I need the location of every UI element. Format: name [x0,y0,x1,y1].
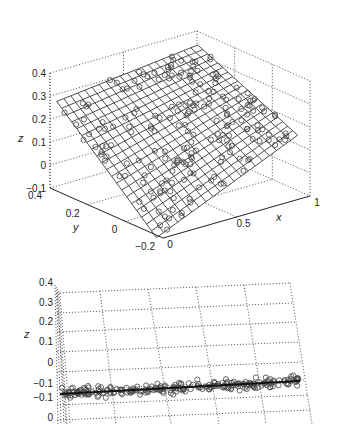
top-z-axis-label: z [17,132,24,144]
y-tick-label: −0.2 [135,241,155,252]
grid-line [196,287,219,424]
grid-line [290,283,312,424]
x-tick-label: 1 [314,197,320,208]
grid-line [57,283,290,293]
z-tick-label: −0.1 [33,392,53,403]
data-point [253,375,258,380]
z-tick-label: 0.4 [39,277,53,288]
z-tick-label: 0 [47,357,53,368]
bottom-z-axis-label: z [23,328,30,340]
top-3d-surface-plot: 0.40.30.20.10−0.10.40.20−0.200.51 z y x [17,31,320,252]
grid-line [57,362,302,372]
bottom-tick-labels: 0.40.30.20.10−0.1−0.10 [33,277,53,423]
z-tick-label: 0.3 [39,297,53,308]
bottom-3d-edge-view-plot: 0.40.30.20.10−0.1−0.10 z [23,277,312,424]
grid-line [57,342,299,352]
top-x-axis-label: x [275,211,282,223]
y-tick-label: 0.4 [28,190,42,201]
bottom-grid [55,283,312,424]
grid-line [57,293,66,424]
y-tick-label: 0.2 [66,208,80,219]
z-tick-label: 0 [47,412,53,423]
z-tick-label: 0 [40,160,46,171]
top-y-axis-label: y [72,221,80,233]
grid-line [57,303,293,313]
z-tick-label: 0.1 [39,336,53,347]
grid-line [57,410,311,420]
data-point [244,386,249,391]
top-fitted-plane-mesh [57,45,298,238]
data-point [276,383,281,388]
x-tick-label: 0 [167,239,173,250]
z-tick-label: 0.1 [32,137,46,148]
x-tick-label: 0.5 [237,218,251,229]
grid-line [57,322,296,332]
grid-line [244,285,266,424]
figure: 0.40.30.20.10−0.10.40.20−0.200.51 z y x … [0,0,339,424]
z-tick-label: 0.4 [32,68,46,79]
z-tick-label: 0.2 [39,316,53,327]
z-tick-label: −0.1 [33,378,53,389]
y-tick-label: 0 [112,224,118,235]
z-tick-label: 0.2 [32,114,46,125]
z-tick-label: 0.3 [32,91,46,102]
data-point [186,381,191,386]
grid-line [148,289,171,424]
